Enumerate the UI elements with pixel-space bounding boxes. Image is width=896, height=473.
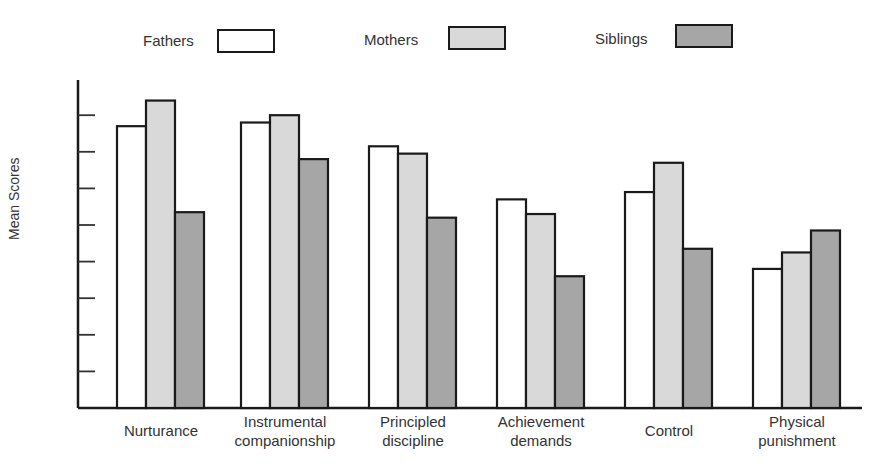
bar-siblings-2 <box>427 218 456 408</box>
bar-mothers-4 <box>654 163 683 408</box>
bar-fathers-1 <box>241 123 270 408</box>
bar-fathers-5 <box>753 269 782 408</box>
bar-mothers-5 <box>782 252 811 408</box>
bar-mothers-1 <box>270 115 299 408</box>
bar-fathers-3 <box>497 199 526 408</box>
x-axis-label: Physicalpunishment <box>717 412 877 450</box>
bar-fathers-2 <box>369 146 398 408</box>
bar-siblings-0 <box>175 212 204 408</box>
bar-siblings-3 <box>555 276 584 408</box>
bar-mothers-2 <box>398 154 427 408</box>
bar-chart: Fathers Mothers Siblings Mean Scores Nur… <box>0 0 896 473</box>
bar-siblings-1 <box>299 159 328 408</box>
bar-fathers-4 <box>625 192 654 408</box>
bar-fathers-0 <box>117 126 146 408</box>
bar-siblings-4 <box>683 249 712 408</box>
bar-mothers-3 <box>526 214 555 408</box>
plot-area <box>0 0 896 473</box>
bar-mothers-0 <box>146 101 175 408</box>
bar-siblings-5 <box>811 230 840 408</box>
